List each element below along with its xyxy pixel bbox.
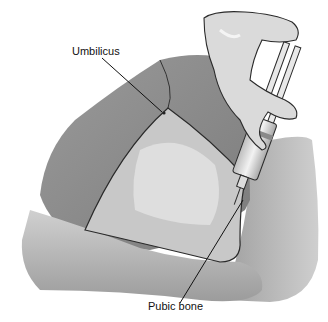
illustration: Umbilicus Pubic bone (0, 0, 328, 322)
pubic-bone-label: Pubic bone (148, 300, 203, 312)
umbilicus-mark (162, 111, 165, 114)
abdomen-illustration (0, 0, 328, 322)
umbilicus-label: Umbilicus (72, 45, 120, 57)
